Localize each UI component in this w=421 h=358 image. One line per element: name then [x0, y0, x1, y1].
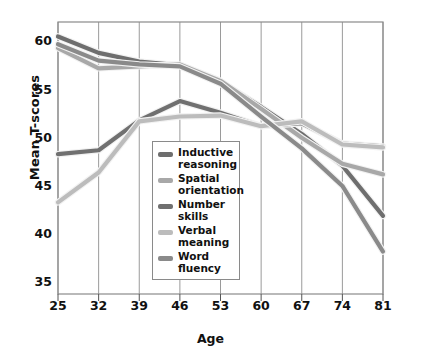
legend-item[interactable]: Spatial orientation [157, 173, 235, 196]
x-axis-title: Age [0, 331, 421, 346]
x-tick-label: 46 [163, 298, 197, 313]
y-axis-title: Mean T-scores [27, 58, 42, 198]
x-tick-label: 39 [122, 298, 156, 313]
legend-item[interactable]: Verbal meaning [157, 225, 235, 248]
legend-label: Inductive reasoning [178, 147, 237, 170]
legend-label: Word fluency [178, 251, 221, 274]
x-tick-label: 81 [366, 298, 400, 313]
chart-legend: Inductive reasoningSpatial orientationNu… [152, 141, 240, 280]
x-tick-label: 53 [204, 298, 238, 313]
y-tick-label: 40 [22, 226, 52, 241]
legend-swatch-icon [158, 230, 173, 235]
legend-item[interactable]: Word fluency [157, 251, 235, 274]
x-tick-label: 74 [325, 298, 359, 313]
legend-swatch-icon [158, 256, 173, 261]
legend-swatch-icon [158, 204, 173, 209]
y-tick-label: 60 [22, 33, 52, 48]
y-tick-label: 35 [22, 274, 52, 289]
x-tick-label: 67 [285, 298, 319, 313]
legend-item[interactable]: Number skills [157, 199, 235, 222]
y-tick-label: 50 [22, 130, 52, 145]
x-tick-label: 25 [41, 298, 75, 313]
y-tick-label: 55 [22, 82, 52, 97]
legend-swatch-icon [158, 178, 173, 183]
chart-container: Mean T-scores Age 354045505560 253239465… [0, 0, 421, 358]
x-tick-label: 32 [82, 298, 116, 313]
legend-label: Verbal meaning [178, 225, 229, 248]
legend-item[interactable]: Inductive reasoning [157, 147, 235, 170]
x-tick-label: 60 [244, 298, 278, 313]
y-tick-label: 45 [22, 178, 52, 193]
legend-label: Spatial orientation [178, 173, 244, 196]
legend-label: Number skills [178, 199, 225, 222]
legend-swatch-icon [158, 152, 173, 157]
